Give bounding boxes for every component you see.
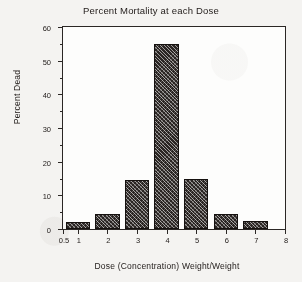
chart-title: Percent Mortality at each Dose (0, 5, 302, 16)
bar-series (63, 27, 285, 229)
y-tick-40: 40 (58, 94, 63, 95)
y-minor-tick-15 (60, 179, 63, 180)
x-tick-3: 3 (137, 229, 138, 234)
x-axis-title: Dose (Concentration) Weight/Weight (40, 261, 294, 271)
y-tick-label-10: 10 (43, 192, 51, 201)
x-tick-label-2: 2 (106, 236, 110, 245)
x-tick-4: 4 (167, 229, 168, 234)
bar-dose-3 (125, 180, 149, 229)
y-minor-tick-55 (60, 44, 63, 45)
y-minor-tick-5 (60, 212, 63, 213)
y-tick-label-60: 60 (43, 24, 51, 33)
y-tick-label-40: 40 (43, 91, 51, 100)
bar-dose-4 (154, 44, 178, 229)
y-tick-label-50: 50 (43, 57, 51, 66)
y-tick-label-0: 0 (47, 226, 51, 235)
x-tick-6: 6 (226, 229, 227, 234)
y-tick-30: 30 (58, 128, 63, 129)
x-tick-label-7: 7 (254, 236, 258, 245)
y-tick-10: 10 (58, 195, 63, 196)
x-tick-label-6: 6 (225, 236, 229, 245)
y-minor-tick-45 (60, 78, 63, 79)
y-tick-label-20: 20 (43, 158, 51, 167)
plot-area: 01020304050600.512345678 (62, 26, 286, 230)
x-tick-label-1: 1 (77, 236, 81, 245)
y-tick-60: 60 (58, 27, 63, 28)
x-tick-label-0.5: 0.5 (59, 236, 69, 245)
chart-figure: Percent Mortality at each Dose Percent D… (0, 0, 302, 282)
bar-dose-5 (184, 179, 208, 230)
x-tick-label-8: 8 (284, 236, 288, 245)
x-tick-label-5: 5 (195, 236, 199, 245)
y-tick-50: 50 (58, 61, 63, 62)
x-tick-5: 5 (196, 229, 197, 234)
y-minor-tick-35 (60, 111, 63, 112)
x-tick-2: 2 (107, 229, 108, 234)
bar-dose-2 (95, 214, 119, 229)
bar-dose-1 (66, 222, 90, 229)
y-tick-20: 20 (58, 162, 63, 163)
bar-dose-7 (243, 221, 267, 229)
y-minor-tick-25 (60, 145, 63, 146)
x-tick-label-4: 4 (166, 236, 170, 245)
x-tick-7: 7 (255, 229, 256, 234)
bar-dose-6 (214, 214, 238, 229)
y-tick-label-30: 30 (43, 125, 51, 134)
x-tick-1: 1 (78, 229, 79, 234)
x-tick-8: 8 (285, 229, 286, 234)
x-tick-label-3: 3 (136, 236, 140, 245)
y-axis-title: Percent Dead (12, 42, 22, 152)
x-tick-0.5: 0.5 (63, 229, 64, 234)
